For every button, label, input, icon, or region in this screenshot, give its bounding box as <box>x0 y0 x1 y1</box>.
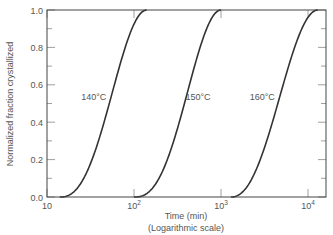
curves: 140°C150°C160°C <box>60 10 318 197</box>
crystallization-chart: Normalized fraction crystallized 0.00.20… <box>0 0 333 235</box>
x-axis-title: Time (min) <box>165 211 208 221</box>
y-axis-label: Normalized fraction crystallized <box>5 42 15 167</box>
y-tick-label: 1.0 <box>30 6 43 16</box>
x-tick-label: 104 <box>301 199 315 211</box>
curve-150C <box>134 10 221 197</box>
x-tick-label: 102 <box>127 199 141 211</box>
x-tick-label: 103 <box>214 199 228 211</box>
curve-label: 140°C <box>81 92 107 102</box>
curve-label: 160°C <box>250 92 276 102</box>
curve-160C <box>231 10 318 197</box>
y-tick-label: 0.2 <box>30 155 43 165</box>
y-axis-ticks: 0.00.20.40.60.81.0 <box>30 6 326 203</box>
y-tick-label: 0.6 <box>30 80 43 90</box>
y-tick-label: 0.4 <box>30 118 43 128</box>
y-axis-title: Normalized fraction crystallized <box>5 42 15 167</box>
curve-label: 150°C <box>185 92 211 102</box>
x-axis-subtitle: (Logarithmic scale) <box>148 223 224 233</box>
y-tick-label: 0.8 <box>30 43 43 53</box>
curve-140C <box>60 10 147 197</box>
x-tick-label: 10 <box>42 201 52 211</box>
